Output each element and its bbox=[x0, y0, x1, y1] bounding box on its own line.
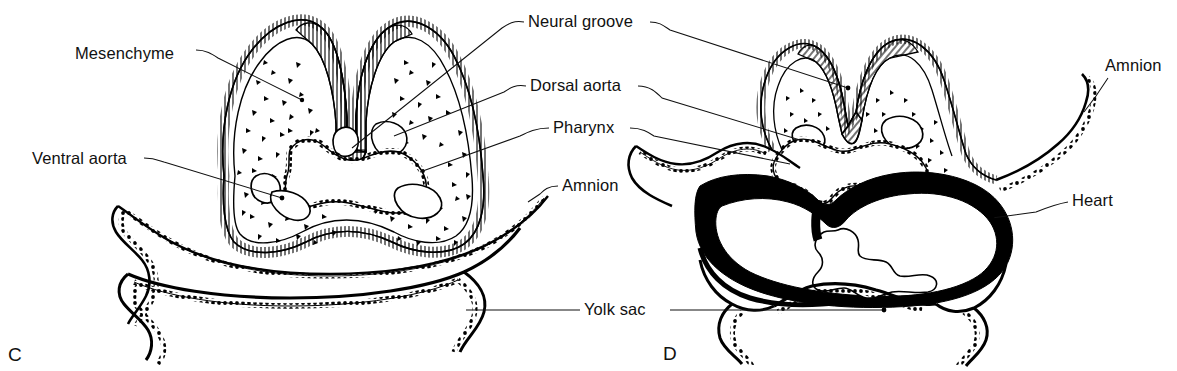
panel-letter-d: D bbox=[663, 344, 677, 363]
label-amnion-right: Amnion bbox=[1105, 57, 1162, 74]
label-pharynx: Pharynx bbox=[553, 119, 614, 136]
label-neural-groove: Neural groove bbox=[528, 13, 633, 30]
embryo-section-figure: Mesenchyme Ventral aorta Neural groove D… bbox=[0, 0, 1177, 371]
panel-letter-c: C bbox=[8, 345, 22, 364]
label-amnion-left: Amnion bbox=[562, 177, 619, 194]
panel-d-drawing bbox=[629, 39, 1095, 366]
label-heart: Heart bbox=[1072, 192, 1113, 209]
panel-c-drawing bbox=[112, 20, 548, 364]
label-ventral-aorta: Ventral aorta bbox=[32, 150, 127, 167]
label-yolk-sac: Yolk sac bbox=[584, 301, 646, 318]
label-mesenchyme: Mesenchyme bbox=[75, 45, 174, 62]
label-dorsal-aorta: Dorsal aorta bbox=[530, 77, 621, 94]
